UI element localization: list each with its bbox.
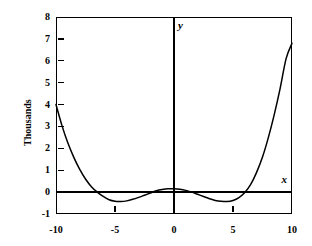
polynomial-curve: [56, 43, 292, 201]
chart-figure: -10-50510 -1012345678 Thousands y x: [0, 0, 312, 246]
curve-layer: [0, 0, 312, 246]
